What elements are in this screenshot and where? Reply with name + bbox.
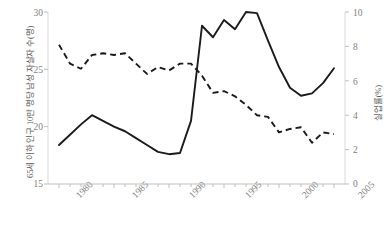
series-line-suicide	[59, 12, 334, 154]
series-line-unemployment	[59, 45, 334, 143]
x-axis-tick-marks	[59, 184, 334, 188]
y-left-tick-marks	[44, 12, 48, 184]
axis-lines	[48, 12, 345, 184]
y-right-tick-marks	[345, 12, 349, 184]
